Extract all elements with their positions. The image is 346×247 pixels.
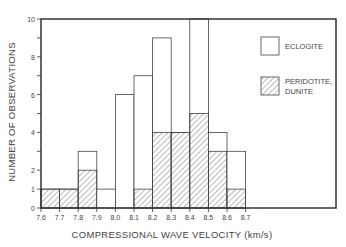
x-axis-label: COMPRESSIONAL WAVE VELOCITY (km/s) [72,229,273,240]
y-tick-label: 4 [31,129,35,136]
y-tick-label: 2 [31,167,35,174]
y-axis: 01246810 [27,16,41,212]
y-tick-label: 0 [31,205,35,212]
y-tick-label: 8 [31,54,35,61]
x-tick-label: 8.3 [166,214,176,221]
x-tick-label: 7.7 [55,214,65,221]
legend-label-peridotite-line2: DUNITE [285,87,313,96]
x-tick-label: 8.0 [111,214,121,221]
bars-group [41,19,246,208]
x-tick-label: 7.8 [73,214,83,221]
y-axis-label: NUMBER OF OBSERVATIONS [6,42,17,182]
x-tick-label: 8.1 [129,214,139,221]
bar-peridotite-8.3-8.4 [171,132,190,208]
histogram-chart: 01246810 7.67.77.87.98.08.18.28.38.48.58… [0,0,346,247]
bar-peridotite-7.8-7.9 [78,170,97,208]
y-tick-label: 1 [31,186,35,193]
y-tick-label: 10 [27,16,35,23]
x-tick-label: 7.9 [92,214,102,221]
x-tick-label: 8.7 [241,214,251,221]
bar-peridotite-7.7-7.8 [60,189,79,208]
legend-label-peridotite-line1: PERIDOTITE, [285,77,332,86]
x-tick-label: 8.6 [222,214,232,221]
legend-swatch-peridotite [261,77,279,95]
legend-label-eclogite: ECLOGITE [285,42,323,51]
y-tick-label: 6 [31,92,35,99]
bar-peridotite-8.2-8.3 [153,132,172,208]
legend-swatch-eclogite [261,37,279,55]
bar-peridotite-8.1-8.2 [134,189,153,208]
bar-peridotite-8.4-8.5 [190,114,209,209]
x-axis: 7.67.77.87.98.08.18.28.38.48.58.68.7 [36,208,250,221]
bar-eclogite-7.9-8.0 [97,189,116,208]
x-tick-label: 7.6 [36,214,46,221]
x-tick-label: 8.5 [204,214,214,221]
bar-peridotite-8.5-8.6 [208,151,227,208]
bar-eclogite-8.0-8.1 [115,95,134,208]
legend: ECLOGITE PERIDOTITE, DUNITE [261,37,332,96]
bar-eclogite-8.1-8.2 [134,76,153,208]
x-tick-label: 8.4 [185,214,195,221]
x-tick-label: 8.2 [148,214,158,221]
bar-peridotite-7.6-7.7 [41,189,60,208]
bar-peridotite-8.6-8.7 [227,189,246,208]
